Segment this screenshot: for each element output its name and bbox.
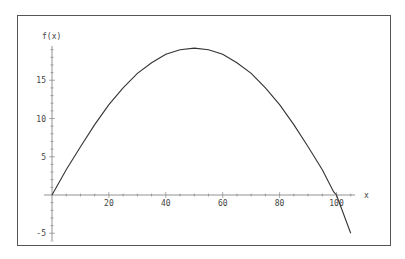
x-tick-label: 20	[104, 199, 114, 208]
x-axis-label: x	[364, 191, 369, 200]
axes	[44, 46, 355, 240]
y-tick-label: 15	[36, 76, 46, 85]
y-axis-label: f(x)	[42, 32, 61, 41]
y-tick-label: 10	[36, 115, 46, 124]
x-tick-label: 60	[218, 199, 228, 208]
y-tick-label: -5	[36, 229, 46, 238]
ticks: 20406080100-551015	[36, 50, 350, 241]
y-tick-label: 5	[41, 153, 46, 162]
x-tick-label: 40	[161, 199, 171, 208]
line-chart: 20406080100-551015 f(x) x	[0, 0, 405, 259]
x-tick-label: 100	[329, 199, 344, 208]
x-tick-label: 80	[275, 199, 285, 208]
function-curve	[52, 48, 351, 233]
